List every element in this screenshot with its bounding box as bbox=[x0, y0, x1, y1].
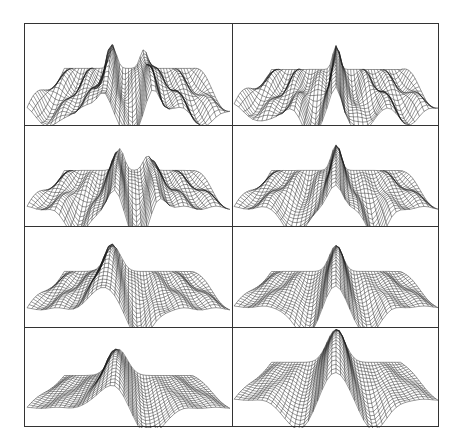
surface-panel-r4-c1 bbox=[25, 327, 232, 428]
wireframe-surface bbox=[232, 125, 440, 226]
surface-panel-r4-c2 bbox=[232, 327, 440, 428]
wireframe-surface bbox=[25, 226, 232, 327]
mesh-lines bbox=[234, 45, 438, 125]
surface-panel-r2-c2 bbox=[232, 125, 440, 226]
row-divider-1 bbox=[25, 125, 438, 126]
mesh-lines bbox=[27, 149, 230, 226]
wireframe-surface bbox=[232, 226, 440, 327]
surface-panel-r1-c2 bbox=[232, 24, 440, 125]
surface-panel-r3-c1 bbox=[25, 226, 232, 327]
wireframe-surface bbox=[232, 327, 440, 428]
wireframe-surface-figure bbox=[24, 23, 439, 427]
surface-panel-r1-c1 bbox=[25, 24, 232, 125]
mesh-lines bbox=[234, 330, 438, 429]
wireframe-surface bbox=[232, 24, 440, 125]
surface-panel-r2-c1 bbox=[25, 125, 232, 226]
wireframe-surface bbox=[25, 327, 232, 428]
wireframe-surface bbox=[25, 24, 232, 125]
mesh-lines bbox=[234, 245, 438, 327]
mesh-lines bbox=[27, 244, 230, 327]
row-divider-3 bbox=[25, 327, 438, 328]
mesh-lines bbox=[234, 145, 438, 226]
wireframe-surface bbox=[25, 125, 232, 226]
column-divider bbox=[232, 24, 233, 426]
mesh-lines bbox=[27, 45, 230, 125]
mesh-lines bbox=[27, 349, 230, 428]
row-divider-2 bbox=[25, 226, 438, 227]
surface-panel-r3-c2 bbox=[232, 226, 440, 327]
